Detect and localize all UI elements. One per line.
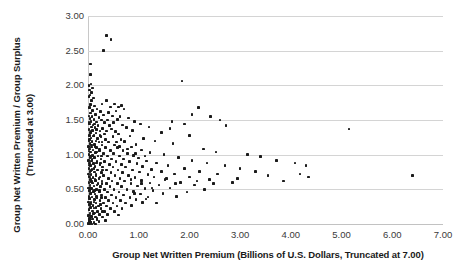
scatter-chart: Group Net Written Premium / Group Surplu…	[0, 0, 457, 270]
x-tick-label: 4.00	[269, 230, 313, 240]
x-tick-label: 3.00	[218, 230, 262, 240]
x-tick-label: 6.00	[370, 230, 414, 240]
x-axis-title: Group Net Written Premium (Billions of U…	[88, 249, 448, 261]
x-tick-label: 7.00	[421, 230, 457, 240]
x-tick-label: 1.00	[117, 230, 161, 240]
x-tick-label: 2.00	[167, 230, 211, 240]
x-tick-label: 5.00	[320, 230, 364, 240]
x-axis-tick-labels: 0.001.002.003.004.005.006.007.00	[0, 0, 457, 270]
x-tick-label: 0.00	[66, 230, 110, 240]
